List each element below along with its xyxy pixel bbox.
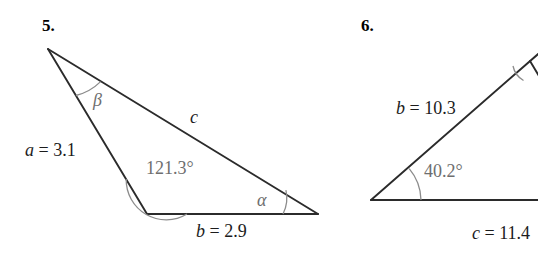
problem-number-5: 5. (42, 17, 55, 34)
angle-beta-label: β (93, 91, 102, 109)
triangle-5-side-c (48, 49, 318, 214)
triangle-5-outline (48, 49, 318, 214)
triangles-drawing (0, 0, 538, 253)
problem-number-6: 6. (361, 17, 374, 34)
triangle-6-side-a (530, 61, 538, 86)
side-b-label: b = 2.9 (196, 222, 247, 240)
side-c-label-fig6: c = 11.4 (472, 224, 530, 242)
angle-alpha-label: α (257, 191, 266, 209)
side-c-label: c (190, 108, 198, 126)
side-b-label-fig6: b = 10.3 (396, 99, 456, 117)
side-a-label: a = 3.1 (25, 141, 76, 159)
triangle-6-angle-arc (409, 169, 421, 200)
figure-sheet: 5. β a = 3.1 c 121.3° α b = 2.9 6. b = 1… (0, 0, 538, 253)
triangle-5-side-a (48, 49, 147, 214)
angle-obtuse-label: 121.3° (146, 159, 194, 177)
angle-40-label: 40.2° (424, 162, 463, 180)
